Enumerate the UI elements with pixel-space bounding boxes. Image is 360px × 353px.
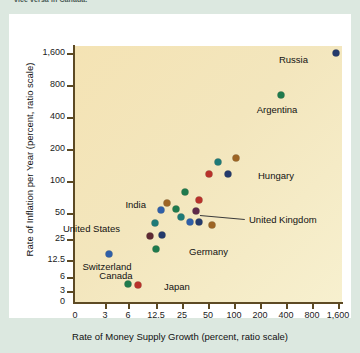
scatter-point[interactable] <box>333 50 340 57</box>
point-label: Hungary <box>258 170 294 181</box>
scatter-point[interactable] <box>206 171 213 178</box>
y-tick-mark <box>67 117 74 119</box>
y-tick-mark <box>67 213 74 215</box>
point-label: India <box>125 199 146 210</box>
scatter-point[interactable] <box>158 207 165 214</box>
x-tick-mark <box>128 303 130 309</box>
x-tick-mark <box>312 303 314 309</box>
scatter-point[interactable] <box>196 219 203 226</box>
y-axis-line <box>73 45 75 303</box>
point-label: Russia <box>279 54 308 65</box>
scatter-point[interactable] <box>178 214 185 221</box>
scatter-point[interactable] <box>147 233 154 240</box>
scatter-point[interactable] <box>164 200 171 207</box>
scatter-point[interactable] <box>152 220 159 227</box>
x-tick-mark <box>105 303 107 309</box>
y-tick-mark <box>67 149 74 151</box>
x-tick-label: 400 <box>278 310 293 320</box>
x-tick-label: 1,600 <box>327 310 350 320</box>
scatter-point[interactable] <box>233 155 240 162</box>
y-tick-mark <box>67 85 74 87</box>
x-axis-title: Rate of Money Supply Growth (percent, ra… <box>9 331 351 342</box>
scatter-point[interactable] <box>182 189 189 196</box>
y-tick-label: 100 <box>50 175 65 185</box>
y-axis-tick-labels: 1,600800400200100502512.5630 <box>9 14 65 314</box>
x-tick-label: 200 <box>252 310 267 320</box>
scatter-point[interactable] <box>193 208 200 215</box>
x-tick-mark <box>156 303 158 309</box>
y-tick-label: 800 <box>50 79 65 89</box>
x-tick-label: 25 <box>177 310 187 320</box>
scatter-point[interactable] <box>135 282 142 289</box>
scatter-point[interactable] <box>215 159 222 166</box>
x-tick-label: 50 <box>203 310 213 320</box>
x-tick-mark <box>208 303 210 309</box>
scatter-point[interactable] <box>209 222 216 229</box>
x-tick-label: 0 <box>72 310 77 320</box>
scatter-point[interactable] <box>278 92 285 99</box>
scatter-point[interactable] <box>125 281 132 288</box>
x-tick-mark <box>182 303 184 309</box>
scatter-point[interactable] <box>173 206 180 213</box>
y-tick-mark <box>67 260 74 262</box>
figure-panel: 1,600800400200100502512.5630 03612.52550… <box>9 14 351 318</box>
y-tick-label: 12.5 <box>47 254 65 264</box>
x-tick-label: 100 <box>226 310 241 320</box>
x-tick-label: 3 <box>102 310 107 320</box>
scatter-point[interactable] <box>106 251 113 258</box>
x-tick-mark <box>338 303 340 309</box>
point-label: United States <box>63 223 120 234</box>
y-tick-mark <box>67 239 74 241</box>
y-tick-label: 0 <box>60 296 65 306</box>
point-label: Japan <box>164 281 190 292</box>
x-tick-label: 12.5 <box>147 310 165 320</box>
x-tick-mark <box>234 303 236 309</box>
scatter-point[interactable] <box>153 246 160 253</box>
x-tick-label: 6 <box>125 310 130 320</box>
y-tick-mark <box>67 291 74 293</box>
y-tick-label: 25 <box>55 233 65 243</box>
y-tick-label: 6 <box>60 271 65 281</box>
x-tick-mark <box>286 303 288 309</box>
y-tick-label: 50 <box>55 207 65 217</box>
x-tick-mark <box>260 303 262 309</box>
y-axis-title: Rate of Inflation per Year (percent, rat… <box>24 55 35 265</box>
scatter-point[interactable] <box>225 171 232 178</box>
scatter-point[interactable] <box>187 219 194 226</box>
point-label: Argentina <box>257 104 298 115</box>
caption-tail: vice versa in Canada. <box>14 0 87 3</box>
scatter-point[interactable] <box>196 197 203 204</box>
point-label: Germany <box>189 246 228 257</box>
point-label: Canada <box>99 270 132 281</box>
y-tick-label: 3 <box>60 285 65 295</box>
scatter-point[interactable] <box>159 232 166 239</box>
point-label: United Kingdom <box>249 214 317 225</box>
y-tick-label: 400 <box>50 111 65 121</box>
y-tick-mark <box>67 53 74 55</box>
y-tick-label: 200 <box>50 143 65 153</box>
x-tick-label: 800 <box>304 310 319 320</box>
y-tick-mark <box>67 181 74 183</box>
y-tick-mark <box>67 277 74 279</box>
y-tick-label: 1,600 <box>42 47 65 57</box>
